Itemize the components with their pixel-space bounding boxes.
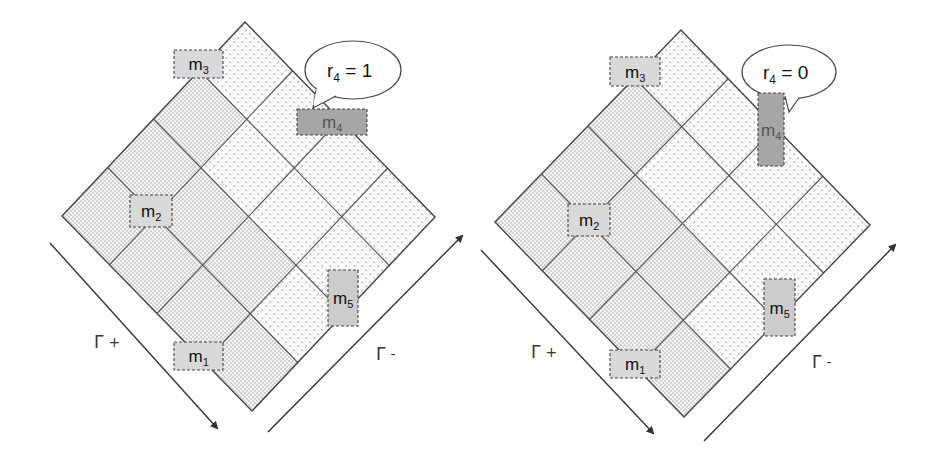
m-subscript: 3 <box>639 72 645 84</box>
m4-box: m4 <box>758 93 784 166</box>
m-subscript: 4 <box>775 130 781 142</box>
m1-box: m1 <box>174 342 223 370</box>
gamma-symbol: Γ <box>94 332 104 352</box>
m5-box: m5 <box>328 270 358 326</box>
figure-canvas: Γ+Γ-r4 = 1m3m4m2m5m1 Γ+Γ-r4 = 0m3m4m2m5m… <box>0 0 934 456</box>
panel-left-diagram: Γ+Γ-r4 = 1m3m4m2m5m1 <box>50 22 462 432</box>
m5-box: m5 <box>764 279 795 336</box>
gamma-sign: + <box>108 334 120 350</box>
m-letter: m <box>625 63 639 82</box>
m2-box: m2 <box>568 204 610 236</box>
m-subscript: 3 <box>203 64 209 76</box>
m3-box: m3 <box>610 57 660 86</box>
m-letter: m <box>579 211 593 230</box>
m3-box: m3 <box>174 50 223 78</box>
gamma-symbol: Γ <box>531 342 541 362</box>
gamma-minus-label: Γ- <box>812 352 832 372</box>
m-letter: m <box>189 55 203 74</box>
gamma-sign: + <box>545 344 557 360</box>
m-subscript: 2 <box>593 220 599 232</box>
m-letter: m <box>333 289 347 308</box>
gamma-symbol: Γ <box>376 344 386 364</box>
m-letter: m <box>625 355 639 374</box>
panel-right-diagram: Γ+Γ-r4 = 0m3m4m2m5m1 <box>481 30 895 441</box>
m-letter: m <box>770 299 784 318</box>
m-letter: m <box>761 121 775 140</box>
m-letter: m <box>189 347 203 366</box>
gamma-symbol: Γ <box>812 352 822 372</box>
m-subscript: 2 <box>155 211 161 223</box>
m4-box: m4 <box>297 109 367 135</box>
m1-box: m1 <box>610 350 660 378</box>
callout-value: = 1 <box>340 60 372 81</box>
m-subscript: 5 <box>784 308 790 320</box>
m-letter: m <box>322 113 336 132</box>
m-subscript: 5 <box>347 298 353 310</box>
m-subscript: 1 <box>203 356 209 368</box>
callout-value: = 0 <box>776 62 808 83</box>
gamma-sign: - <box>826 354 831 370</box>
callout-bubble: r4 = 0 <box>742 45 836 112</box>
gamma-plus-label: Γ+ <box>94 332 120 352</box>
callout-bubble: r4 = 1 <box>305 41 401 108</box>
m-letter: m <box>141 202 155 221</box>
m-subscript: 1 <box>639 364 645 376</box>
m-subscript: 4 <box>336 122 342 134</box>
gamma-sign: - <box>390 346 395 362</box>
gamma-plus-label: Γ+ <box>531 342 557 362</box>
m2-box: m2 <box>130 195 172 227</box>
gamma-minus-label: Γ- <box>376 344 396 364</box>
